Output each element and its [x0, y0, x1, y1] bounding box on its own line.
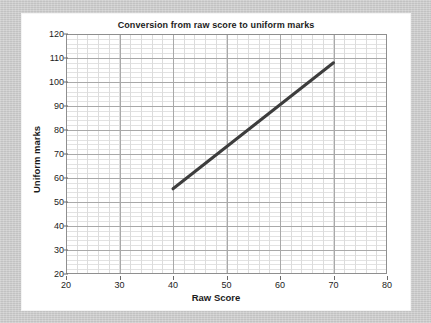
y-tick-mark — [64, 250, 68, 251]
y-tick-mark — [64, 34, 68, 35]
chart-panel: Conversion from raw score to uniform mar… — [22, 14, 410, 310]
plot-area — [66, 34, 387, 274]
x-tick-label: 60 — [275, 280, 285, 290]
y-tick-mark — [64, 154, 68, 155]
y-tick-mark — [64, 178, 68, 179]
x-tick-mark — [173, 276, 174, 280]
y-tick-label: 120 — [38, 29, 64, 39]
x-tick-mark — [280, 276, 281, 280]
y-tick-mark — [64, 226, 68, 227]
x-tick-label: 80 — [382, 280, 392, 290]
x-tick-mark — [387, 276, 388, 280]
y-tick-mark — [64, 274, 68, 275]
x-tick-mark — [120, 276, 121, 280]
y-tick-mark — [64, 82, 68, 83]
x-tick-label: 20 — [61, 280, 71, 290]
y-tick-label: 90 — [38, 101, 64, 111]
x-tick-mark — [66, 276, 67, 280]
x-axis-label: Raw Score — [22, 292, 410, 303]
y-tick-label: 100 — [38, 77, 64, 87]
x-axis-ticks: 20304050607080 — [66, 276, 387, 292]
y-tick-label: 110 — [38, 53, 64, 63]
y-tick-mark — [64, 58, 68, 59]
x-tick-mark — [334, 276, 335, 280]
y-tick-label: 50 — [38, 197, 64, 207]
series-layer — [66, 34, 387, 274]
y-tick-label: 80 — [38, 125, 64, 135]
y-tick-label: 30 — [38, 245, 64, 255]
y-tick-mark — [64, 106, 68, 107]
y-axis-label: Uniform marks — [31, 100, 42, 220]
y-tick-label: 40 — [38, 221, 64, 231]
x-tick-label: 50 — [221, 280, 231, 290]
x-tick-label: 40 — [168, 280, 178, 290]
y-tick-label: 20 — [38, 269, 64, 279]
x-tick-label: 30 — [114, 280, 124, 290]
y-tick-label: 70 — [38, 149, 64, 159]
conversion-line — [173, 63, 334, 189]
y-tick-label: 60 — [38, 173, 64, 183]
x-tick-label: 70 — [328, 280, 338, 290]
screenshot-canvas: Conversion from raw score to uniform mar… — [0, 0, 431, 323]
y-tick-mark — [64, 202, 68, 203]
chart-title: Conversion from raw score to uniform mar… — [22, 20, 410, 30]
x-tick-mark — [227, 276, 228, 280]
x-axis-line — [66, 273, 387, 274]
y-tick-mark — [64, 130, 68, 131]
